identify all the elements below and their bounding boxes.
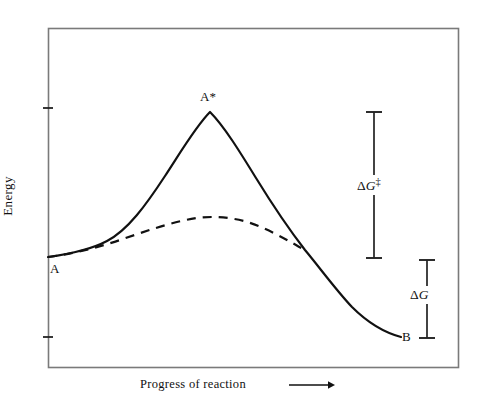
activation-energy-label: ΔG‡ [355,175,383,195]
free-energy-change-label: ΔG [408,286,430,304]
product-label: B [402,329,411,345]
x-axis-title: Progress of reaction [140,377,246,392]
plot-frame [49,29,459,368]
plot-canvas [0,0,487,404]
uncatalyzed-reaction-curve [48,112,401,337]
right-arrow-icon [288,377,336,391]
energy-diagram-figure: Energy Progress of reaction A A* B ΔG‡ Δ… [0,0,487,404]
y-axis-title: Energy [0,168,16,224]
catalyzed-reaction-curve [48,217,305,257]
transition-state-label: A* [200,89,216,105]
reactant-label: A [50,261,59,277]
